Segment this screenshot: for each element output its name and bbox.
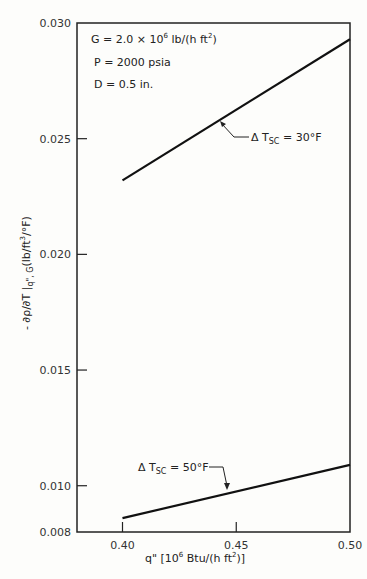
x-axis: 0.400.450.50 — [110, 522, 362, 552]
leader-arrow-30F — [222, 124, 249, 137]
x-tick-label: 0.40 — [110, 539, 135, 552]
y-axis-title: - ∂ρ/∂T |q", G(lb/ft3/°F) — [19, 216, 35, 330]
y-tick-label: 0.030 — [40, 17, 72, 30]
x-tick-label: 0.50 — [338, 539, 363, 552]
y-tick-label: 0.008 — [40, 526, 72, 539]
series-label-30F: Δ TSC = 30°F — [220, 121, 321, 146]
condition-p: P = 2000 psia — [94, 56, 171, 69]
y-tick-label: 0.015 — [40, 364, 72, 377]
arrowhead-30F — [220, 121, 226, 127]
y-tick-label: 0.020 — [40, 248, 72, 261]
svg-text:Δ TSC = 30°F: Δ TSC = 30°F — [251, 131, 321, 146]
condition-d: D = 0.5 in. — [94, 78, 153, 91]
y-tick-label: 0.010 — [40, 480, 72, 493]
arrowhead-50F — [224, 483, 230, 490]
condition-g: G = 2.0 × 106 lb/(h ft2) — [91, 32, 217, 46]
series-label-50F: Δ TSC = 50°F — [138, 461, 230, 490]
svg-text:Δ TSC = 50°F: Δ TSC = 50°F — [138, 461, 208, 476]
y-tick-label: 0.025 — [40, 133, 72, 146]
series-lines — [123, 39, 351, 518]
x-axis-title: q" [106 Btu/(h ft2)] — [145, 551, 245, 565]
chart: 0.0080.0100.0150.0200.0250.030 0.400.450… — [0, 0, 367, 579]
plot-frame — [77, 23, 350, 532]
y-axis: 0.0080.0100.0150.0200.0250.030 — [40, 17, 88, 539]
